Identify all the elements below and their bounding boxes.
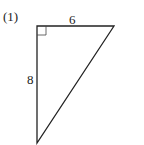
triangle-shape <box>37 26 114 143</box>
right-angle-marker <box>37 26 46 35</box>
left-side-label: 8 <box>27 73 34 86</box>
top-side-label: 6 <box>69 13 76 26</box>
